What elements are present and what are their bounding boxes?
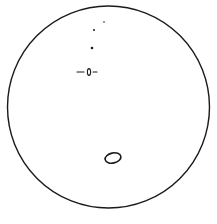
marked-object (77, 69, 97, 76)
nebula-outline (104, 151, 122, 164)
star-dot (93, 29, 95, 31)
field-of-view-circle (8, 6, 210, 208)
eyepiece-sketch (0, 0, 217, 224)
star-field (91, 21, 105, 49)
star-dot (103, 21, 105, 23)
marked-object-oval (87, 69, 90, 76)
star-dot (91, 47, 94, 50)
